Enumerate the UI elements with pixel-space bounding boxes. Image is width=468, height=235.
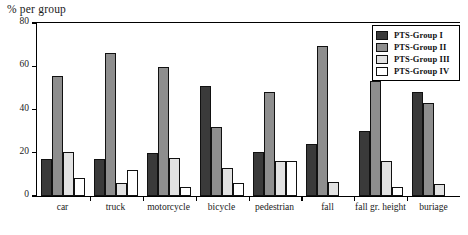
legend-swatch-icon: [376, 43, 388, 52]
bar: [328, 182, 339, 196]
legend-item-label: PTS-Group III: [394, 54, 450, 64]
bar: [434, 184, 445, 196]
bar-group-bars: [249, 23, 302, 196]
y-tick-label: 40: [20, 103, 30, 113]
bar: [286, 161, 297, 196]
legend-swatch-icon: [376, 67, 388, 76]
bar: [74, 178, 85, 196]
x-axis-label: pedestrian: [248, 202, 301, 212]
bar-chart: % per group 020406080 cartruckmotorcycle…: [0, 0, 468, 235]
bar: [233, 183, 244, 196]
bar-group-bars: [143, 23, 196, 196]
x-axis-tick: [354, 196, 355, 201]
x-axis-label: car: [36, 202, 89, 212]
bar: [41, 159, 52, 196]
bar: [180, 187, 191, 196]
bar-group: [143, 23, 196, 196]
bar: [147, 153, 158, 196]
x-axis-label: fall: [301, 202, 354, 212]
x-axis-tick: [196, 196, 197, 201]
x-axis-tick: [407, 196, 408, 201]
legend-item[interactable]: PTS-Group III: [376, 53, 455, 65]
x-axis-tick: [301, 196, 302, 201]
bar: [200, 86, 211, 196]
bar: [381, 161, 392, 196]
x-axis-tick: [143, 196, 144, 201]
bar: [253, 152, 264, 196]
bar: [116, 183, 127, 196]
bar: [306, 144, 317, 196]
bar: [127, 170, 138, 196]
bar: [412, 92, 423, 196]
bar: [359, 131, 370, 196]
bar: [222, 168, 233, 196]
x-axis-label: truck: [89, 202, 142, 212]
x-axis-label: fall gr. height: [354, 202, 407, 212]
legend-item[interactable]: PTS-Group II: [376, 41, 455, 53]
bar: [370, 81, 381, 196]
bar: [158, 67, 169, 196]
y-tick-label: 20: [20, 146, 30, 156]
bar-group: [196, 23, 249, 196]
bar: [105, 53, 116, 196]
bar: [94, 159, 105, 196]
x-axis-tick: [249, 196, 250, 201]
bar: [264, 92, 275, 196]
legend-item-label: PTS-Group IV: [394, 66, 449, 76]
bar: [169, 158, 180, 196]
bar: [423, 103, 434, 196]
legend: PTS-Group IPTS-Group IIPTS-Group IIIPTS-…: [372, 25, 460, 81]
bar-group: [90, 23, 143, 196]
legend-item-label: PTS-Group II: [394, 42, 446, 52]
bar-group-bars: [37, 23, 90, 196]
legend-item-label: PTS-Group I: [394, 30, 443, 40]
bar: [392, 187, 403, 196]
bar-group: [37, 23, 90, 196]
legend-swatch-icon: [376, 55, 388, 64]
bar: [317, 46, 328, 196]
y-tick-label: 60: [20, 59, 30, 69]
y-axis-title: % per group: [7, 3, 66, 15]
bar-group-bars: [301, 23, 354, 196]
bar-group-bars: [196, 23, 249, 196]
legend-item[interactable]: PTS-Group I: [376, 29, 455, 41]
bar: [63, 152, 74, 196]
bar-group: [249, 23, 302, 196]
bar: [211, 127, 222, 196]
y-tick-label: 0: [24, 189, 29, 199]
y-tick-label: 80: [20, 16, 30, 26]
bar: [275, 161, 286, 196]
legend-item[interactable]: PTS-Group IV: [376, 65, 455, 77]
x-axis-label: buriage: [407, 202, 460, 212]
x-axis-label: bicycle: [195, 202, 248, 212]
bar-group-bars: [90, 23, 143, 196]
bar-group: [301, 23, 354, 196]
legend-items: PTS-Group IPTS-Group IIPTS-Group IIIPTS-…: [376, 29, 455, 77]
x-axis-label: motorcycle: [142, 202, 195, 212]
legend-swatch-icon: [376, 31, 388, 40]
x-axis-tick: [90, 196, 91, 201]
x-axis-labels: cartruckmotorcyclebicyclepedestrianfallf…: [36, 202, 460, 212]
bar: [52, 76, 63, 196]
